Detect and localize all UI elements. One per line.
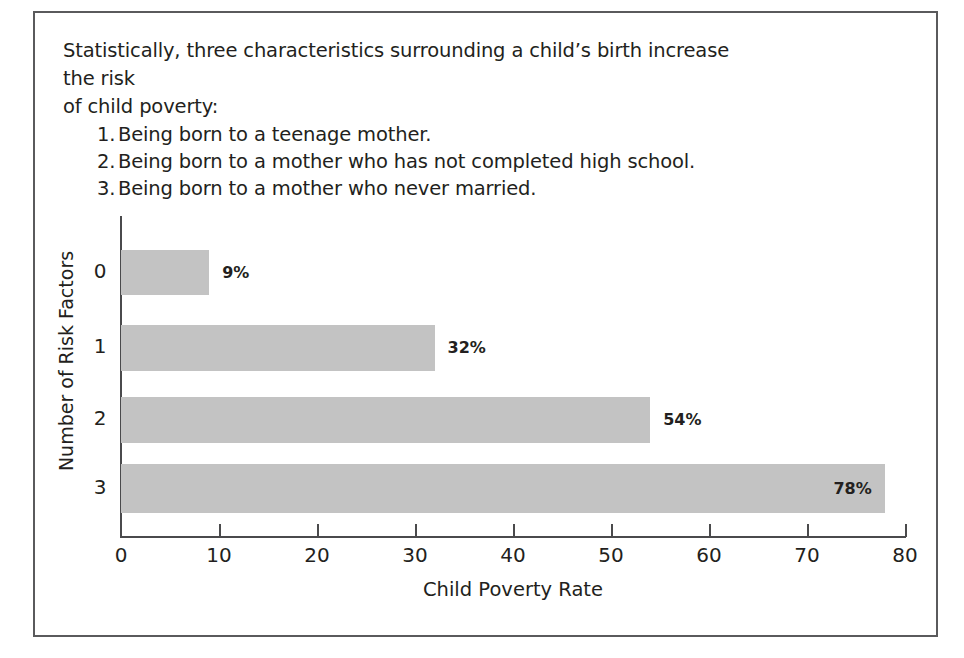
bar: [121, 397, 650, 443]
bar-value-label: 9%: [222, 263, 249, 282]
x-axis-tick-label: 0: [91, 543, 151, 567]
x-axis-title: Child Poverty Rate: [120, 578, 906, 601]
y-axis-title: Number of Risk Factors: [55, 231, 77, 491]
x-axis-tick-label: 60: [679, 543, 739, 567]
x-axis-tick: [611, 524, 613, 537]
x-axis-tick-label: 80: [875, 543, 935, 567]
bar-value-label: 32%: [448, 338, 486, 357]
x-axis-tick: [415, 524, 417, 537]
y-axis-category-label: 0: [87, 259, 113, 283]
bar-chart: 01020304050607080 9%32%54%78% 0123 Numbe…: [35, 13, 940, 639]
x-axis-tick: [905, 524, 907, 537]
bar-value-label: 54%: [663, 410, 701, 429]
figure-panel: Statistically, three characteristics sur…: [33, 11, 938, 637]
bar: [121, 250, 209, 295]
bar: [121, 464, 885, 513]
y-axis-category-label: 2: [87, 406, 113, 430]
x-axis-tick-label: 20: [287, 543, 347, 567]
x-axis-tick: [709, 524, 711, 537]
bar-value-label: 78%: [833, 479, 871, 498]
y-axis-category-label: 3: [87, 475, 113, 499]
x-axis-tick: [317, 524, 319, 537]
x-axis-tick: [807, 524, 809, 537]
x-axis-tick: [219, 524, 221, 537]
x-axis-tick-label: 50: [581, 543, 641, 567]
x-axis-tick-label: 10: [189, 543, 249, 567]
x-axis-tick-label: 40: [483, 543, 543, 567]
x-axis-tick-label: 70: [777, 543, 837, 567]
x-axis-tick: [513, 524, 515, 537]
y-axis-category-label: 1: [87, 334, 113, 358]
x-axis-tick-label: 30: [385, 543, 445, 567]
bar: [121, 325, 435, 371]
